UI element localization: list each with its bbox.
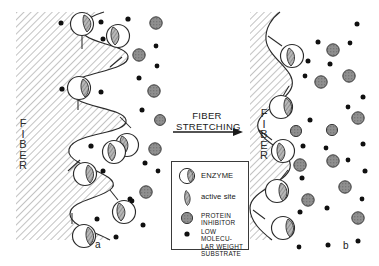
substrate [143, 161, 148, 166]
substrate [101, 169, 106, 174]
substrate [99, 20, 104, 25]
substrate [154, 44, 159, 49]
substrate [101, 37, 106, 42]
substrate [325, 206, 330, 211]
enzyme [103, 141, 126, 164]
substrate [59, 21, 64, 26]
protein-inhibitor [150, 17, 162, 29]
substrate [306, 59, 311, 64]
substrate [130, 199, 135, 204]
protein-inhibitor [290, 125, 301, 136]
legend-label-active-site: active site [201, 193, 248, 200]
enzyme [272, 217, 295, 240]
enzyme [107, 25, 130, 48]
substrate [316, 40, 321, 45]
substrate [363, 169, 368, 174]
substrate [324, 146, 329, 151]
enzyme [281, 45, 304, 68]
enzyme [68, 77, 91, 100]
fiber-stretching-line1: FIBER [176, 110, 238, 121]
protein-inhibitor [352, 212, 364, 224]
enzyme [266, 180, 289, 203]
enzyme-symbol-icon [178, 167, 198, 185]
protein-inhibitor [327, 155, 339, 167]
legend-label-substrate: LOW MOLECU- LAR WEIGHT SUBSTRATE [201, 228, 248, 258]
fiber-label-panel-b: F I B E R [258, 108, 270, 161]
protein-inhibitor [148, 85, 160, 97]
protein-inhibitor [149, 143, 161, 155]
substrate [141, 223, 146, 228]
substrate [297, 245, 302, 250]
substrate [155, 64, 160, 69]
protein-inhibitor [315, 76, 327, 88]
enzyme [270, 96, 293, 119]
substrate [361, 142, 366, 147]
substrate [360, 197, 365, 202]
substrate-symbol-icon [178, 227, 198, 245]
substrate [328, 62, 333, 67]
substrate [303, 74, 308, 79]
substrate [326, 243, 331, 248]
enzyme [113, 201, 136, 224]
substrate [301, 144, 306, 149]
substrate [346, 105, 351, 110]
substrate [356, 239, 361, 244]
active-site-symbol-icon [178, 189, 198, 207]
protein-inhibitor [302, 194, 314, 206]
panel-a [16, 12, 165, 248]
substrate [125, 16, 130, 21]
fiber-stretching-line2: STRETCHING [176, 121, 238, 132]
substrate [308, 118, 313, 123]
substrate [59, 86, 64, 91]
substrate [140, 108, 145, 113]
enzyme [73, 225, 96, 248]
substrate [348, 41, 353, 46]
protein-inhibitor [343, 70, 355, 82]
substrate [95, 217, 100, 222]
substrate [361, 95, 366, 100]
substrate [99, 90, 104, 95]
protein-inhibitor [327, 44, 339, 56]
panel-letter-b: b [343, 240, 349, 251]
enzyme [74, 163, 97, 186]
figure-canvas: F I B E R F I B E R FIBER STRETCHING a b… [0, 0, 379, 266]
protein-inhibitor [326, 124, 337, 135]
protein-inhibitor-group-left [133, 17, 166, 198]
protein-inhibitor [140, 186, 152, 198]
protein-inhibitor-group-right [290, 44, 364, 224]
substrate [300, 176, 305, 181]
legend-box: ENZYME active site PROTEIN INHIBITOR [171, 161, 249, 250]
substrate [346, 158, 351, 163]
panel-letter-a: a [95, 239, 101, 250]
protein-inhibitor-symbol-icon [178, 209, 198, 227]
enzyme [272, 140, 295, 163]
protein-inhibitor [352, 112, 364, 124]
enzyme [71, 13, 94, 36]
legend-label-enzyme: ENZYME [201, 172, 248, 179]
protein-inhibitor [339, 181, 351, 193]
substrate [137, 76, 142, 81]
protein-inhibitor [294, 159, 306, 171]
fiber-label-panel-a: F I B E R [17, 118, 29, 171]
substrate [114, 235, 119, 240]
substrate [88, 143, 93, 148]
protein-inhibitor [155, 115, 166, 126]
substrate [355, 22, 360, 27]
substrate [298, 210, 303, 215]
legend-label-protein-inhibitor: PROTEIN INHIBITOR [201, 212, 248, 227]
fiber-stretching-label: FIBER STRETCHING [176, 110, 238, 132]
substrate [156, 169, 161, 174]
protein-inhibitor [133, 49, 145, 61]
